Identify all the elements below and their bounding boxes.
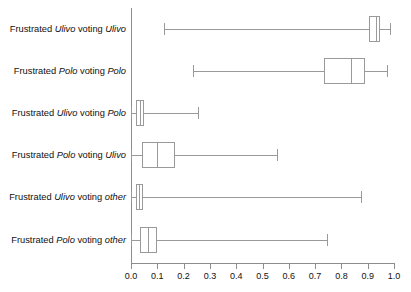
median-line xyxy=(351,58,352,84)
upper-whisker xyxy=(175,155,277,156)
upper-whisker xyxy=(144,113,198,114)
box-iqr xyxy=(369,16,380,42)
x-tick-0.6 xyxy=(289,264,290,269)
x-tick-1.0 xyxy=(394,264,395,269)
whisker-cap-low xyxy=(193,65,194,77)
lower-whisker xyxy=(131,155,142,156)
category-label: Frustrated Polo voting Polo xyxy=(14,66,126,76)
x-tick-0.3 xyxy=(210,264,211,269)
category-label: Frustrated Ulivo voting Ulivo xyxy=(10,24,126,34)
x-tick-0.4 xyxy=(236,264,237,269)
whisker-cap-high xyxy=(387,65,388,77)
x-tick-label-0.0: 0.0 xyxy=(125,271,138,281)
y-axis-line xyxy=(131,8,132,263)
lower-whisker xyxy=(193,71,325,72)
category-label: Frustrated Ulivo voting Polo xyxy=(12,108,126,118)
category-label: Frustrated Polo voting Ulivo xyxy=(12,150,126,160)
median-line xyxy=(148,227,149,253)
median-line xyxy=(157,142,158,168)
category-label: Frustrated Polo voting other xyxy=(11,235,126,245)
whisker-cap-low xyxy=(164,23,165,35)
x-tick-label-0.6: 0.6 xyxy=(283,271,296,281)
box-iqr xyxy=(324,58,365,84)
upper-whisker xyxy=(365,71,387,72)
x-tick-0.1 xyxy=(157,264,158,269)
median-line xyxy=(139,184,140,210)
whisker-cap-high xyxy=(198,107,199,119)
x-tick-label-0.2: 0.2 xyxy=(177,271,190,281)
x-tick-label-1.0: 1.0 xyxy=(388,271,401,281)
lower-whisker xyxy=(131,240,140,241)
x-tick-label-0.1: 0.1 xyxy=(151,271,164,281)
whisker-cap-low xyxy=(131,191,132,203)
box-iqr xyxy=(142,142,176,168)
whisker-cap-high xyxy=(277,149,278,161)
x-tick-label-0.8: 0.8 xyxy=(335,271,348,281)
upper-whisker xyxy=(157,240,327,241)
x-tick-0.0 xyxy=(131,264,132,269)
box-plot-chart: 0.00.10.20.30.40.50.60.70.80.91.0 Frustr… xyxy=(0,0,411,292)
x-tick-0.2 xyxy=(184,264,185,269)
upper-whisker xyxy=(143,197,361,198)
whisker-cap-high xyxy=(361,191,362,203)
median-line xyxy=(140,100,141,126)
lower-whisker xyxy=(164,29,369,30)
x-tick-label-0.9: 0.9 xyxy=(361,271,374,281)
x-tick-0.9 xyxy=(368,264,369,269)
whisker-cap-low xyxy=(131,149,132,161)
median-line xyxy=(376,16,377,42)
x-tick-label-0.4: 0.4 xyxy=(230,271,243,281)
whisker-cap-low xyxy=(131,234,132,246)
upper-whisker xyxy=(380,29,390,30)
x-tick-label-0.7: 0.7 xyxy=(309,271,322,281)
x-tick-0.5 xyxy=(263,264,264,269)
x-tick-label-0.3: 0.3 xyxy=(204,271,217,281)
whisker-cap-low xyxy=(131,107,132,119)
x-tick-0.8 xyxy=(341,264,342,269)
whisker-cap-high xyxy=(327,234,328,246)
category-label: Frustrated Ulivo voting other xyxy=(9,192,126,202)
whisker-cap-high xyxy=(390,23,391,35)
x-tick-0.7 xyxy=(315,264,316,269)
x-tick-label-0.5: 0.5 xyxy=(256,271,269,281)
